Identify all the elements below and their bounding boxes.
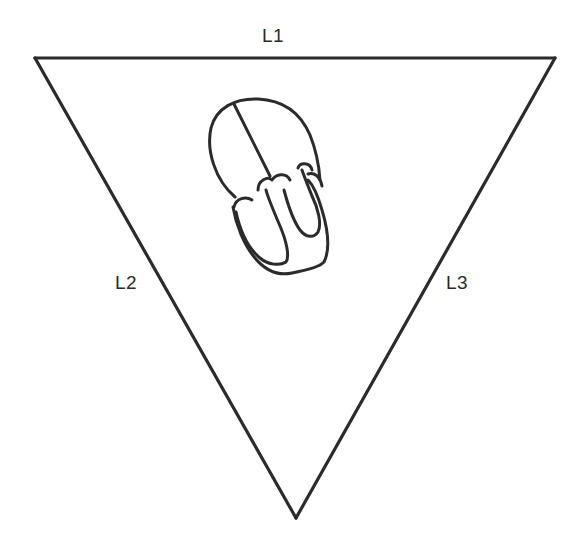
heart-septum-line [234, 104, 270, 176]
heart-outline-icon [210, 99, 328, 274]
valve-arc-left [234, 198, 252, 207]
valve-arc-mid-left [258, 175, 290, 190]
valve-arc-mid-right [298, 164, 312, 170]
lead-3-label: L3 [446, 273, 468, 292]
einthoven-triangle-diagram: L1 L2 L3 [0, 0, 582, 542]
diagram-canvas [0, 0, 582, 542]
heart-atria-outline [210, 99, 320, 197]
lead-2-label: L2 [115, 273, 137, 292]
lead-1-label: L1 [262, 26, 284, 45]
lead-3-side [296, 58, 555, 518]
left-ventricle-chamber [236, 190, 288, 264]
lead-2-side [35, 58, 296, 518]
lead-triangle [35, 58, 555, 518]
